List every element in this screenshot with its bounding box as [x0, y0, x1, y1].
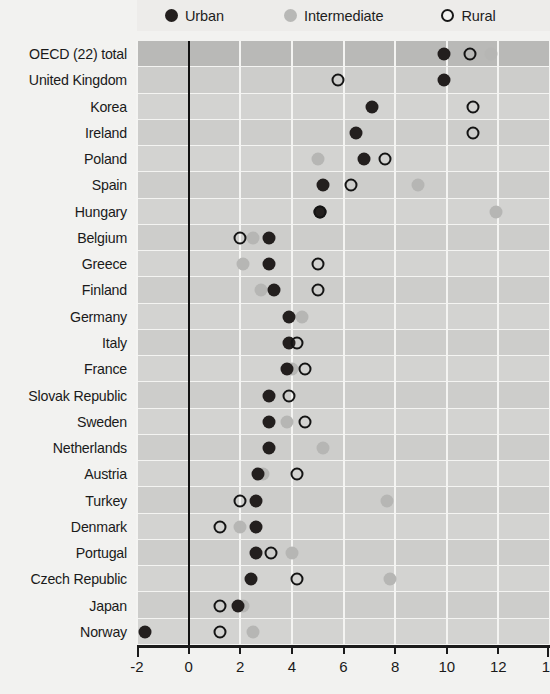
- y-axis-label: Japan: [89, 598, 127, 614]
- data-point-urban: [252, 468, 265, 481]
- legend-label-intermediate: Intermediate: [304, 8, 383, 24]
- data-point-rural: [378, 153, 391, 166]
- data-point-intermediate: [412, 179, 425, 192]
- y-axis-label: Denmark: [71, 519, 127, 535]
- y-axis-label: Italy: [102, 335, 127, 351]
- data-point-rural: [332, 74, 345, 87]
- data-point-rural: [283, 389, 296, 402]
- data-point-intermediate: [489, 205, 502, 218]
- x-axis-tick: [547, 645, 549, 657]
- data-point-urban: [438, 48, 451, 61]
- data-point-rural: [463, 48, 476, 61]
- x-axis-tick-label: 0: [184, 658, 192, 675]
- data-point-rural: [213, 599, 226, 612]
- data-point-intermediate: [311, 153, 324, 166]
- data-point-intermediate: [254, 284, 267, 297]
- data-point-intermediate: [280, 415, 293, 428]
- x-axis-tick-label: 8: [391, 658, 399, 675]
- data-point-rural: [466, 100, 479, 113]
- data-point-rural: [311, 258, 324, 271]
- data-point-rural: [234, 494, 247, 507]
- vertical-gridline: [136, 41, 138, 645]
- x-axis-tick: [343, 645, 345, 654]
- data-point-urban: [262, 258, 275, 271]
- data-point-rural: [265, 547, 278, 560]
- vertical-gridline: [446, 41, 448, 645]
- data-point-urban: [262, 415, 275, 428]
- chart-legend: Urban Intermediate Rural: [137, 0, 550, 31]
- y-axis-label: Netherlands: [53, 440, 127, 456]
- y-axis-label: Ireland: [85, 125, 127, 141]
- y-axis-label: Austria: [84, 466, 127, 482]
- data-point-urban: [267, 284, 280, 297]
- data-point-urban: [249, 520, 262, 533]
- x-axis-tick-label: 10: [438, 658, 455, 675]
- x-axis-tick-label: 12: [490, 658, 507, 675]
- y-axis-label: Norway: [80, 624, 127, 640]
- y-axis-label: Spain: [92, 177, 127, 193]
- data-point-intermediate: [296, 310, 309, 323]
- y-axis-label: Turkey: [85, 493, 127, 509]
- data-point-rural: [298, 415, 311, 428]
- data-point-intermediate: [247, 231, 260, 244]
- data-point-intermediate: [383, 573, 396, 586]
- x-axis: -202468101214: [137, 645, 550, 694]
- y-axis-label: United Kingdom: [29, 72, 127, 88]
- data-point-urban: [438, 74, 451, 87]
- data-point-intermediate: [316, 442, 329, 455]
- data-point-intermediate: [484, 48, 497, 61]
- x-axis-tick-label: 14: [542, 658, 550, 675]
- vertical-gridline: [343, 41, 345, 645]
- data-point-urban: [283, 310, 296, 323]
- open-circle-icon: [441, 9, 454, 22]
- data-point-rural: [291, 468, 304, 481]
- data-point-intermediate: [234, 520, 247, 533]
- data-point-rural: [311, 284, 324, 297]
- y-axis-label: Belgium: [77, 230, 127, 246]
- data-point-rural: [213, 625, 226, 638]
- data-point-rural: [298, 363, 311, 376]
- data-point-urban: [350, 126, 363, 139]
- y-axis-category-labels: OECD (22) totalUnited KingdomKoreaIrelan…: [0, 41, 133, 645]
- y-axis-label: Poland: [84, 151, 127, 167]
- x-axis-tick: [291, 645, 293, 654]
- filled-dark-circle-icon: [165, 9, 178, 22]
- x-axis-tick: [137, 645, 139, 657]
- data-point-urban: [249, 494, 262, 507]
- data-point-intermediate: [381, 494, 394, 507]
- legend-label-rural: Rural: [461, 8, 495, 24]
- data-point-urban: [249, 547, 262, 560]
- data-point-urban: [262, 389, 275, 402]
- data-point-urban: [138, 625, 151, 638]
- data-point-rural: [291, 573, 304, 586]
- x-axis-tick: [394, 645, 396, 654]
- y-axis-label: Greece: [82, 256, 127, 272]
- legend-item-urban: Urban: [165, 8, 224, 24]
- y-axis-label: France: [84, 361, 127, 377]
- vertical-gridline: [239, 41, 241, 645]
- y-axis-label: Portugal: [76, 545, 127, 561]
- data-point-rural: [291, 337, 304, 350]
- data-point-rural: [314, 205, 327, 218]
- y-axis-label: Hungary: [75, 204, 127, 220]
- legend-item-intermediate: Intermediate: [284, 8, 383, 24]
- data-point-rural: [466, 126, 479, 139]
- x-axis-tick: [188, 645, 190, 654]
- data-point-urban: [262, 231, 275, 244]
- scatter-plot-area: [137, 41, 550, 645]
- data-point-rural: [234, 231, 247, 244]
- y-axis-label: Korea: [90, 99, 127, 115]
- data-point-urban: [231, 599, 244, 612]
- x-axis-tick: [497, 645, 499, 654]
- x-axis-tick-label: 4: [288, 658, 296, 675]
- x-axis-tick-label: 6: [339, 658, 347, 675]
- zero-reference-line: [188, 41, 190, 645]
- legend-item-rural: Rural: [441, 8, 495, 24]
- data-point-intermediate: [236, 258, 249, 271]
- y-axis-label: Czech Republic: [30, 571, 127, 587]
- data-point-rural: [213, 520, 226, 533]
- data-point-urban: [358, 153, 371, 166]
- y-axis-label: OECD (22) total: [29, 46, 127, 62]
- vertical-gridline: [497, 41, 499, 645]
- y-axis-label: Sweden: [77, 414, 127, 430]
